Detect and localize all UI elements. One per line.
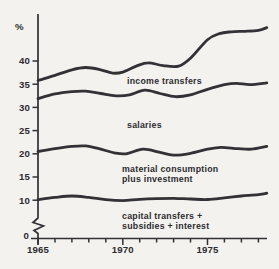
x-axis-ticks: 196519701975 xyxy=(27,239,258,256)
series-line-income-transfers xyxy=(38,28,267,81)
y-tick-label-0: 0 xyxy=(23,230,29,241)
series-label-salaries: salaries xyxy=(127,120,162,130)
series-line-capital-transfers-subsidies-interest xyxy=(38,193,267,201)
y-tick-label: 35 xyxy=(19,79,31,90)
y-tick-label: 25 xyxy=(19,125,31,136)
x-tick-label: 1970 xyxy=(112,244,134,255)
y-tick-label: 15 xyxy=(19,171,31,182)
series-label-capital-transfers-subsidies-interest: subsidies + interest xyxy=(122,221,209,231)
series-label-material-consumption-plus-investment: plus investment xyxy=(122,174,193,184)
y-tick-label: 10 xyxy=(19,195,30,206)
series-label-income-transfers: income transfers xyxy=(127,76,202,86)
y-tick-label: 40 xyxy=(19,55,30,66)
line-chart: % 403530252015100 196519701975 income tr… xyxy=(0,0,279,269)
y-axis-ticks: 403530252015100 xyxy=(19,55,39,241)
series-line-material-consumption-plus-investment xyxy=(38,146,267,155)
y-axis-unit-label: % xyxy=(15,21,24,32)
figure: % 403530252015100 196519701975 income tr… xyxy=(0,0,279,269)
x-tick-label: 1975 xyxy=(196,244,219,255)
y-tick-label: 20 xyxy=(19,148,30,159)
series-label-capital-transfers-subsidies-interest: capital transfers + xyxy=(122,211,202,221)
y-axis-line-with-break xyxy=(33,14,44,245)
y-tick-label: 30 xyxy=(19,102,30,113)
series-label-material-consumption-plus-investment: material consumption xyxy=(122,164,218,174)
x-tick-label: 1965 xyxy=(27,244,50,255)
